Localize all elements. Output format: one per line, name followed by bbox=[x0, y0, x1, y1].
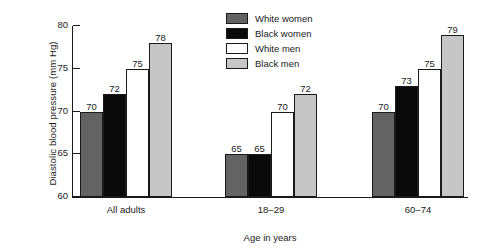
bar: 65 bbox=[248, 154, 271, 197]
x-axis-title: Age in years bbox=[72, 232, 468, 243]
y-axis-tick-label: 75 bbox=[57, 62, 68, 73]
legend-label: Black men bbox=[255, 58, 299, 69]
y-axis-line bbox=[72, 26, 73, 198]
y-axis-tick-label: 60 bbox=[57, 190, 68, 201]
legend-swatch bbox=[226, 58, 248, 69]
y-axis-tick: 80 bbox=[73, 25, 80, 26]
legend-swatch bbox=[226, 43, 248, 54]
bar: 65 bbox=[225, 154, 248, 197]
bar-value-label: 75 bbox=[424, 58, 435, 69]
bar-value-label: 73 bbox=[401, 75, 412, 86]
legend-item: Black men bbox=[226, 56, 313, 71]
bar: 75 bbox=[418, 69, 441, 197]
bar: 70 bbox=[271, 112, 294, 198]
bar-value-label: 65 bbox=[231, 143, 242, 154]
legend-label: Black women bbox=[255, 28, 312, 39]
legend-item: Black women bbox=[226, 26, 313, 41]
y-axis-tick: 75 bbox=[73, 68, 80, 69]
bar: 79 bbox=[441, 35, 464, 197]
bar-value-label: 79 bbox=[447, 24, 458, 35]
bar-value-label: 72 bbox=[300, 83, 311, 94]
x-axis-group-label: 60–74 bbox=[405, 204, 431, 215]
x-axis-line bbox=[72, 197, 468, 198]
y-axis-tick: 70 bbox=[73, 111, 80, 112]
bar: 70 bbox=[372, 112, 395, 198]
bar: 78 bbox=[149, 43, 172, 197]
y-axis-title: Diastolic blood pressure (mm Hg) bbox=[47, 14, 58, 214]
bar-value-label: 70 bbox=[378, 101, 389, 112]
legend-swatch bbox=[226, 28, 248, 39]
legend-swatch bbox=[226, 13, 248, 24]
bar-value-label: 78 bbox=[155, 32, 166, 43]
legend-label: White women bbox=[255, 13, 313, 24]
bar: 72 bbox=[294, 94, 317, 197]
bar-value-label: 70 bbox=[277, 101, 288, 112]
legend-item: White men bbox=[226, 41, 313, 56]
y-axis-tick: 60 bbox=[73, 196, 80, 197]
bar: 70 bbox=[80, 112, 103, 198]
legend-item: White women bbox=[226, 11, 313, 26]
bar-value-label: 75 bbox=[132, 58, 143, 69]
bar: 75 bbox=[126, 69, 149, 197]
legend-label: White men bbox=[255, 43, 300, 54]
chart-legend: White womenBlack womenWhite menBlack men bbox=[226, 11, 313, 71]
bar: 72 bbox=[103, 94, 126, 197]
bar-value-label: 70 bbox=[86, 101, 97, 112]
x-axis-group-label: All adults bbox=[107, 204, 146, 215]
bar: 73 bbox=[395, 86, 418, 197]
y-axis-tick-label: 65 bbox=[57, 147, 68, 158]
bar-value-label: 65 bbox=[254, 143, 265, 154]
bar-value-label: 72 bbox=[109, 83, 120, 94]
y-axis-tick-label: 80 bbox=[57, 19, 68, 30]
x-axis-group-label: 18–29 bbox=[258, 204, 284, 215]
bar-chart-figure: Diastolic blood pressure (mm Hg) 6065707… bbox=[0, 0, 489, 248]
y-axis-tick: 65 bbox=[73, 153, 80, 154]
y-axis-tick-label: 70 bbox=[57, 105, 68, 116]
